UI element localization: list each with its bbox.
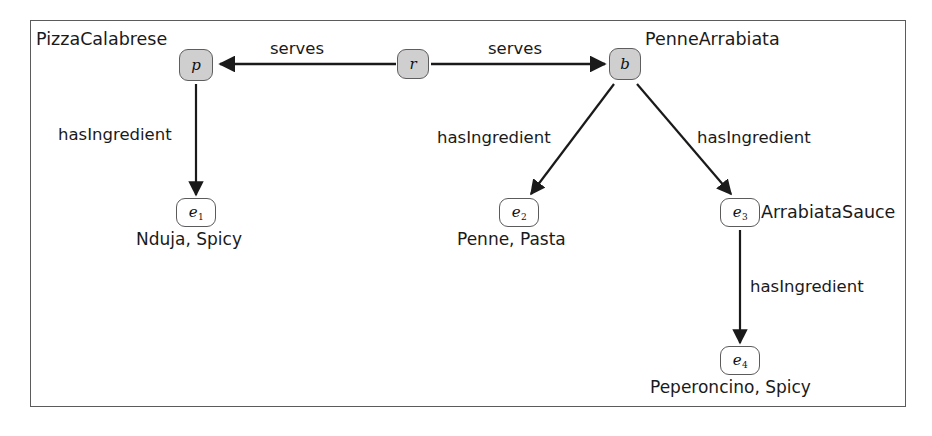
edge-label-r-serves-p: serves bbox=[270, 41, 324, 58]
node-b-label: b bbox=[620, 57, 630, 72]
edge-label-b-has-e3: hasIngredient bbox=[697, 130, 811, 147]
entity-label-pizza-calabrese: PizzaCalabrese bbox=[36, 31, 167, 49]
node-e3[interactable]: e3 bbox=[720, 198, 760, 227]
edge-label-b-has-e2: hasIngredient bbox=[437, 130, 551, 147]
diagram-canvas: p r b e1 e2 e3 e4 PizzaCalabrese PenneAr… bbox=[0, 0, 932, 436]
node-b[interactable]: b bbox=[609, 48, 641, 80]
node-p-label: p bbox=[191, 58, 201, 73]
node-e3-label: e3 bbox=[733, 205, 748, 220]
node-e2-label: e2 bbox=[512, 205, 527, 220]
node-e4[interactable]: e4 bbox=[720, 346, 760, 375]
node-e2[interactable]: e2 bbox=[499, 198, 539, 227]
node-e1-label: e1 bbox=[189, 205, 204, 220]
entity-label-penne-arrabiata: PenneArrabiata bbox=[645, 31, 780, 49]
node-e4-label: e4 bbox=[733, 353, 748, 368]
attributes-e1: Nduja, Spicy bbox=[136, 231, 242, 248]
node-p[interactable]: p bbox=[179, 49, 213, 81]
node-r-label: r bbox=[409, 57, 416, 72]
entity-label-arrabiata-sauce: ArrabiataSauce bbox=[761, 204, 895, 222]
attributes-e4: Peperoncino, Spicy bbox=[650, 379, 811, 396]
node-r[interactable]: r bbox=[397, 49, 429, 79]
edge-label-p-has-e1: hasIngredient bbox=[58, 127, 172, 144]
node-e1[interactable]: e1 bbox=[176, 198, 216, 227]
edge-label-r-serves-b: serves bbox=[488, 41, 542, 58]
attributes-e2: Penne, Pasta bbox=[457, 231, 566, 248]
edge-label-e3-has-e4: hasIngredient bbox=[750, 279, 864, 296]
